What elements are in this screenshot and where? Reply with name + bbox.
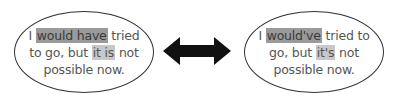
text: tried to <box>322 28 370 43</box>
text: not <box>335 45 359 60</box>
text: tried <box>108 28 140 43</box>
right-bubble-text: I would've tried to go, but it's not pos… <box>258 27 369 78</box>
left-speech-bubble: I would have tried to go, but it is not … <box>14 11 154 93</box>
text: to go, but <box>29 45 92 60</box>
highlight-full-form: it is <box>92 45 115 60</box>
text: not <box>115 45 139 60</box>
double-headed-arrow-icon <box>163 36 231 66</box>
text: possible now. <box>273 62 354 77</box>
text: possible now. <box>43 62 124 77</box>
left-bubble-text: I would have tried to go, but it is not … <box>28 27 139 78</box>
right-speech-bubble: I would've tried to go, but it's not pos… <box>244 11 384 93</box>
text: go, but <box>269 45 316 60</box>
highlight-contraction: would've <box>266 28 322 43</box>
highlight-full-form: would have <box>36 28 108 43</box>
text: I <box>258 28 265 43</box>
text: I <box>28 28 35 43</box>
highlight-contraction: it's <box>316 45 336 60</box>
